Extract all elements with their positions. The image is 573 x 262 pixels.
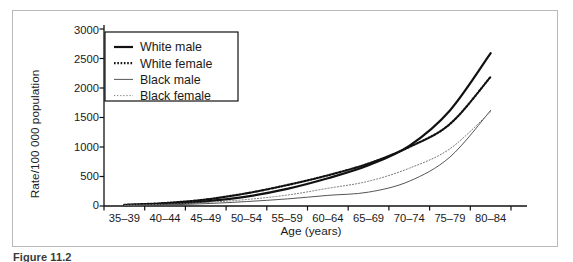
- legend-label: White male: [140, 40, 202, 54]
- x-tick-label: 50–54: [231, 212, 262, 224]
- x-tick-label: 40–44: [149, 212, 180, 224]
- y-tick-label: 0: [93, 199, 99, 211]
- y-tick-label: 500: [80, 170, 99, 182]
- y-tick-label: 3000: [74, 24, 99, 36]
- x-tick-label: 60–64: [312, 212, 343, 224]
- legend-label: White female: [140, 57, 212, 71]
- figure-frame: Rate/100 000 population 3000 2500 2000 1…: [12, 10, 558, 247]
- x-tick-label: 65–69: [353, 212, 384, 224]
- y-tick-label: 2500: [74, 53, 99, 65]
- chart-legend: White maleWhite femaleBlack maleBlack fe…: [105, 32, 238, 103]
- x-tick-label: 70–74: [394, 212, 425, 224]
- line-chart: Rate/100 000 population 3000 2500 2000 1…: [13, 11, 559, 248]
- legend-label: Black female: [140, 89, 211, 103]
- y-tick-labels: 3000 2500 2000 1500 1000 500 0: [74, 24, 99, 212]
- figure-caption: Figure 11.2: [13, 251, 72, 262]
- y-tick-label: 1500: [74, 111, 99, 123]
- y-tick-label: 2000: [74, 82, 99, 94]
- x-tick-label: 35–39: [109, 212, 140, 224]
- y-tick-label: 1000: [74, 141, 99, 153]
- x-tick-label: 45–49: [190, 212, 221, 224]
- x-axis-label: Age (years): [281, 224, 342, 238]
- legend-label: Black male: [140, 73, 201, 87]
- x-tick-labels: 35–3940–4445–4950–5455–5960–6465–6970–74…: [109, 212, 506, 224]
- x-tick-label: 75–79: [434, 212, 465, 224]
- y-axis-label: Rate/100 000 population: [28, 70, 42, 199]
- x-tick-label: 80–84: [475, 212, 506, 224]
- x-tick-label: 55–59: [272, 212, 303, 224]
